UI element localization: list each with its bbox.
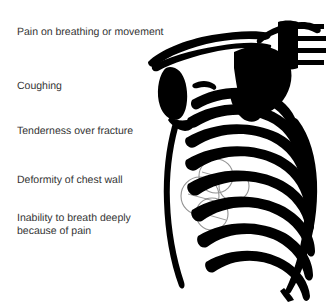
costal-cartilage-icon: [192, 81, 216, 90]
rib-cage-illustration: [138, 0, 328, 304]
symptom-inability-to-breath: Inability to breath deeply because of pa…: [17, 212, 131, 237]
anterior-border-icon: [164, 123, 185, 288]
symptom-deformity: Deformity of chest wall: [17, 174, 123, 187]
symptom-tenderness: Tenderness over fracture: [17, 125, 133, 138]
symptom-coughing: Coughing: [17, 80, 62, 93]
rib-fracture-slide: RIB FRACTURE Pain on breathing or moveme…: [0, 0, 328, 304]
